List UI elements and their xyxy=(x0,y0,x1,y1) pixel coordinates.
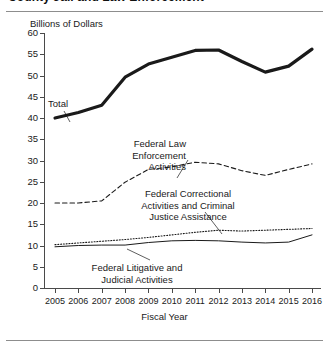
leader-line xyxy=(127,249,150,260)
leader-line xyxy=(205,212,222,234)
leader-line xyxy=(177,160,188,178)
annotation-leader-lines xyxy=(0,0,329,349)
leader-line xyxy=(64,111,70,122)
bottom-divider xyxy=(6,340,323,341)
x-axis-title: Fiscal Year xyxy=(0,311,329,322)
chart-figure: County Jail and Law Enforcement Billions… xyxy=(0,0,329,349)
